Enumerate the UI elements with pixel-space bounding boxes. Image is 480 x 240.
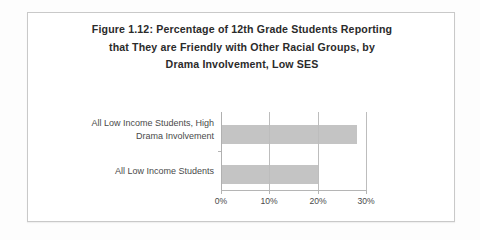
category-label-line-1: All Low Income Students, High: [91, 118, 214, 128]
value-axis-line: [221, 112, 222, 191]
xtick-30: [366, 191, 367, 194]
gridline-20pct: [318, 112, 319, 191]
plot-area: 0% 10% 20% 30%: [221, 112, 366, 191]
category-label-high-drama-involvement: All Low Income Students, High Drama Invo…: [46, 117, 214, 142]
bar-chart: All Low Income Students, High Drama Invo…: [28, 13, 456, 223]
category-label-line-2: Drama Involvement: [136, 131, 214, 141]
category-axis-mid-tick: [218, 151, 221, 152]
xtick-label-10: 10%: [249, 196, 289, 206]
gridline-10pct: [269, 112, 270, 191]
category-label-all-low-income-students: All Low Income Students: [46, 165, 214, 178]
bar-high-drama-involvement: [222, 125, 357, 144]
xtick-label-0: 0%: [201, 196, 241, 206]
figure-border-box: Figure 1.12: Percentage of 12th Grade St…: [27, 12, 455, 222]
bar-all-low-income-students: [222, 165, 319, 184]
category-axis-baseline: [221, 190, 367, 191]
gridline-30pct: [366, 112, 367, 191]
xtick-10: [269, 191, 270, 194]
xtick-label-20: 20%: [298, 196, 338, 206]
category-label-line-1: All Low Income Students: [115, 166, 214, 176]
xtick-label-30: 30%: [346, 196, 386, 206]
xtick-0: [221, 191, 222, 194]
xtick-20: [318, 191, 319, 194]
